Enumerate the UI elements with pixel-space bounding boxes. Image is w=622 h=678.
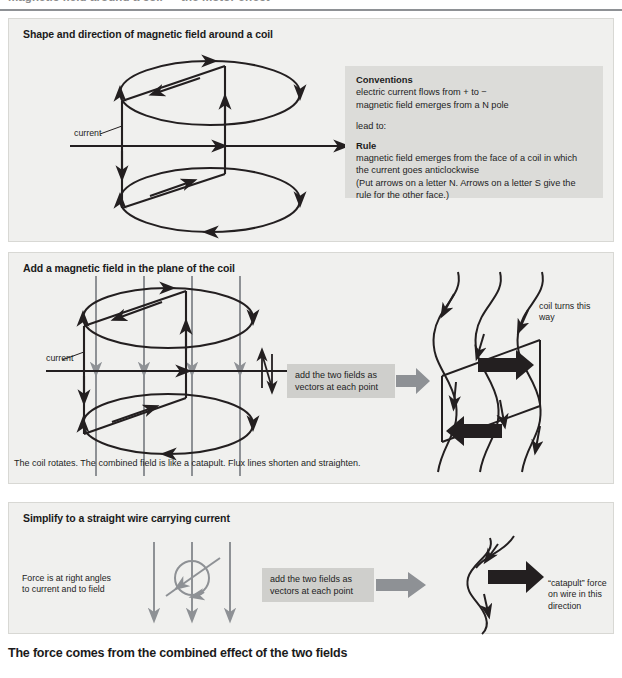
force-arrow-icon-lower [446,416,502,446]
panel-2-current-label: current [46,353,73,364]
rule-heading: Rule [356,140,376,151]
cut-off-header-text: magnetic field around a coil — the motor… [8,0,270,3]
straight-wire-field-diagram [140,540,250,626]
coil-turns-label: coil turns this way [539,301,590,324]
conventions-line-2: magnetic field emerges from a N pole [356,100,509,110]
rule-line-1: magnetic field emerges from the face of … [356,153,577,163]
right-arrow-icon [376,572,426,598]
conventions-box: Conventions electric current flows from … [345,66,603,198]
panel-2-title: Add a magnetic field in the plane of the… [23,262,235,274]
catapult-flux-lines [467,536,514,634]
mid-callout-box: add the two fields as vectors at each po… [287,364,395,398]
field-vector-tail [166,586,180,596]
conventions-line-1: electric current flows from + to − [356,87,487,97]
panel-1-current-label: current [74,128,101,139]
force-right-angles-label: Force is at right angles to current and … [22,573,111,596]
uniform-field-lines [96,276,240,476]
conventions-heading: Conventions [356,74,413,85]
conventions-spacer [356,111,593,120]
conventions-spacer-2 [356,133,593,140]
rule-line-4: rule for the other face.) [356,190,449,200]
conventions-lead-in: lead to: [356,121,386,131]
force-arrows [446,350,534,446]
vertical-field-lines [154,542,230,618]
panel-2-caption: The coil rotates. The combined field is … [14,458,361,468]
coil-field-diagram [60,56,360,241]
rule-line-2: the current goes anticlockwise [356,165,479,175]
header-divider [0,9,622,11]
bottom-flow-arrow [376,572,428,598]
panel-1-title: Shape and direction of magnetic field ar… [23,28,273,40]
current-label-leader [100,126,122,134]
force-arrow-icon [488,561,544,593]
page-top-cut-strip: magnetic field around a coil — the motor… [0,0,622,9]
catapult-force-label: “catapult” force on wire in this directi… [548,578,607,612]
panel-3-title: Simplify to a straight wire carrying cur… [23,512,230,524]
rule-line-3: (Put arrows on a letter N. Arrows on a l… [356,178,576,188]
bottom-callout-box: add the two fields as vectors at each po… [262,568,374,602]
footer-banner: The force comes from the combined effect… [8,646,614,660]
